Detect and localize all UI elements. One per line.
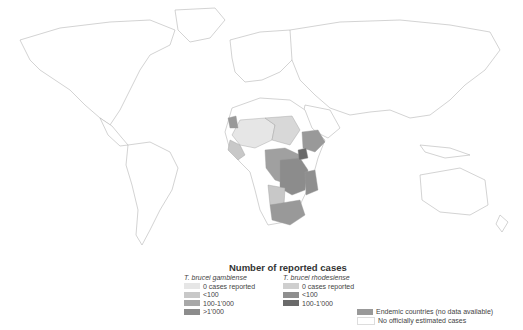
south-america bbox=[126, 142, 178, 245]
legend-swatch bbox=[357, 317, 375, 325]
legend-other: Endemic countries (no data available) No… bbox=[357, 307, 493, 325]
legend-swatch bbox=[184, 292, 200, 298]
legend-item: 0 cases reported bbox=[283, 282, 354, 291]
angola bbox=[268, 185, 285, 205]
legend-item: 0 cases reported bbox=[184, 282, 255, 291]
legend-swatch bbox=[184, 309, 200, 315]
north-america bbox=[20, 20, 175, 125]
legend-swatch bbox=[184, 283, 200, 289]
tanzania-rhodesiense bbox=[305, 170, 318, 195]
central-america bbox=[100, 118, 128, 146]
legend-item: >1'000 bbox=[184, 308, 255, 317]
australia bbox=[420, 168, 488, 215]
legend-swatch bbox=[283, 292, 299, 298]
east-africa-rhodesiense bbox=[298, 148, 308, 160]
europe bbox=[230, 30, 300, 82]
new-zealand bbox=[496, 215, 508, 232]
legend-title: Number of reported cases bbox=[229, 262, 347, 273]
greenland bbox=[175, 8, 225, 42]
asia bbox=[290, 20, 500, 118]
indonesia bbox=[420, 145, 470, 158]
legend-item: <100 bbox=[184, 291, 255, 300]
legend-rhodesiense-header: T. brucei rhodesiense bbox=[283, 274, 354, 281]
legend-item: 100-1'000 bbox=[184, 299, 255, 308]
legend-item: Endemic countries (no data available) bbox=[357, 307, 493, 316]
world-map bbox=[0, 0, 523, 250]
legend-swatch bbox=[357, 309, 373, 315]
legend-swatch bbox=[283, 283, 299, 289]
legend-item: No officially estimated cases bbox=[357, 316, 493, 325]
legend-item: 100-1'000 bbox=[283, 299, 354, 308]
mauritania-gambiense bbox=[228, 116, 238, 128]
legend-item: <100 bbox=[283, 291, 354, 300]
legend-rhodesiense: T. brucei rhodesiense 0 cases reported <… bbox=[283, 274, 354, 308]
legend-swatch bbox=[184, 300, 200, 306]
legend-swatch bbox=[283, 300, 299, 306]
legend-gambiense-header: T. brucei gambiense bbox=[184, 274, 255, 281]
legend-gambiense: T. brucei gambiense 0 cases reported <10… bbox=[184, 274, 255, 316]
